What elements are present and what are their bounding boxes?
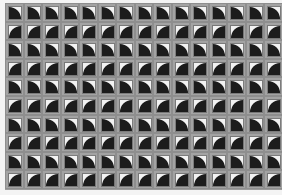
tile — [61, 40, 80, 59]
tile — [61, 170, 80, 189]
tile-face — [157, 174, 169, 186]
quarter-circle-shape — [28, 26, 40, 38]
quarter-circle-shape — [194, 63, 206, 75]
tile-face — [194, 26, 206, 38]
quarter-circle-shape — [157, 174, 169, 186]
tile — [79, 152, 98, 171]
tile — [79, 59, 98, 78]
quarter-circle-shape — [83, 81, 95, 93]
quarter-circle-shape — [65, 63, 77, 75]
quarter-circle-shape — [194, 119, 206, 131]
quarter-circle-shape — [83, 7, 95, 19]
tile-face — [28, 137, 40, 149]
tile-face — [65, 174, 77, 186]
tile — [98, 77, 117, 96]
quarter-circle-shape — [157, 63, 169, 75]
tile-face — [157, 119, 169, 131]
tile — [116, 115, 135, 134]
tile — [153, 3, 172, 22]
quarter-circle-shape — [250, 174, 262, 186]
tile — [227, 133, 246, 152]
tile-face — [46, 119, 58, 131]
tile-face — [46, 81, 58, 93]
tile-face — [176, 174, 188, 186]
tile-face — [176, 100, 188, 112]
tile — [24, 152, 43, 171]
quarter-circle-shape — [213, 26, 225, 38]
quarter-circle-shape — [231, 44, 243, 56]
tile — [116, 152, 135, 171]
quarter-circle-shape — [120, 44, 132, 56]
tile — [135, 133, 154, 152]
tile-face — [120, 119, 132, 131]
quarter-circle-shape — [268, 137, 280, 149]
tile — [5, 59, 24, 78]
tile-face — [157, 100, 169, 112]
quarter-circle-shape — [9, 26, 21, 38]
quarter-circle-shape — [46, 44, 58, 56]
tile-face — [139, 7, 151, 19]
tile — [153, 133, 172, 152]
quarter-circle-shape — [250, 81, 262, 93]
tile-face — [46, 100, 58, 112]
tile-face — [250, 44, 262, 56]
tile — [135, 59, 154, 78]
quarter-circle-shape — [157, 44, 169, 56]
tile — [153, 115, 172, 134]
tile-face — [194, 81, 206, 93]
tile — [24, 133, 43, 152]
tile — [264, 22, 282, 41]
tile-face — [176, 44, 188, 56]
tile-face — [194, 156, 206, 168]
tile — [172, 40, 191, 59]
tile — [264, 96, 282, 115]
quarter-circle-shape — [9, 156, 21, 168]
quarter-circle-shape — [9, 81, 21, 93]
quarter-circle-shape — [194, 44, 206, 56]
quarter-circle-shape — [65, 174, 77, 186]
tile — [172, 22, 191, 41]
tile — [209, 59, 228, 78]
quarter-circle-shape — [46, 26, 58, 38]
tile-face — [120, 137, 132, 149]
tile-face — [83, 156, 95, 168]
tile-face — [194, 63, 206, 75]
tile — [172, 59, 191, 78]
tile-face — [139, 156, 151, 168]
tile-face — [268, 26, 280, 38]
quarter-circle-shape — [65, 81, 77, 93]
quarter-circle-shape — [120, 119, 132, 131]
tile — [116, 133, 135, 152]
tile — [116, 77, 135, 96]
tile-face — [120, 7, 132, 19]
quarter-circle-shape — [231, 81, 243, 93]
quarter-circle-shape — [46, 100, 58, 112]
tile-face — [102, 81, 114, 93]
tile-face — [194, 137, 206, 149]
quarter-circle-shape — [102, 100, 114, 112]
quarter-circle-shape — [120, 174, 132, 186]
tile — [24, 59, 43, 78]
tile-face — [65, 26, 77, 38]
quarter-circle-shape — [176, 119, 188, 131]
quarter-circle-shape — [120, 156, 132, 168]
tile-face — [46, 26, 58, 38]
tile — [246, 3, 265, 22]
tile-face — [28, 7, 40, 19]
tile — [5, 3, 24, 22]
quarter-circle-shape — [231, 174, 243, 186]
tile — [5, 133, 24, 152]
tile — [190, 59, 209, 78]
tile-face — [139, 81, 151, 93]
tile — [246, 115, 265, 134]
quarter-circle-shape — [213, 81, 225, 93]
tile-face — [268, 44, 280, 56]
tile-face — [213, 44, 225, 56]
quarter-circle-shape — [83, 100, 95, 112]
tile — [190, 115, 209, 134]
tile-face — [102, 137, 114, 149]
tile — [227, 115, 246, 134]
tile — [79, 115, 98, 134]
tile-face — [213, 137, 225, 149]
quarter-circle-shape — [176, 156, 188, 168]
